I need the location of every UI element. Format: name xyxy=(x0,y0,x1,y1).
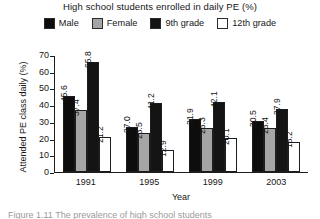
bar-value-label: 42.1 xyxy=(211,91,220,108)
x-axis-tick-labels: 1991199519992003 xyxy=(54,177,308,187)
y-tick-label: 40 xyxy=(39,100,49,110)
x-tick-label: 1995 xyxy=(139,177,159,187)
x-tick-label: 1999 xyxy=(203,177,223,187)
legend-label-male: Male xyxy=(59,19,79,28)
chart-legend: Male Female 9th grade 12th grade xyxy=(0,18,320,29)
bar-value-label: 18.2 xyxy=(286,131,295,148)
bar-value-label: 65.8 xyxy=(84,52,93,69)
bar-value-label: 26.3 xyxy=(199,118,208,135)
plot-area: 010203040506070 45.637.465.821.227.023.5… xyxy=(54,56,308,173)
chart-title: High school students enrolled in daily P… xyxy=(0,1,320,12)
bar: 26.3 xyxy=(201,128,213,172)
bar-value-label: 41.2 xyxy=(147,93,156,110)
y-tick-mark xyxy=(50,56,54,57)
legend-label-female: Female xyxy=(107,19,138,28)
bar-value-label: 45.6 xyxy=(60,85,69,102)
bar-value-label: 37.4 xyxy=(72,99,81,116)
legend-swatch-12th-grade xyxy=(217,18,228,29)
x-axis-line xyxy=(54,172,308,173)
y-tick-mark xyxy=(50,173,54,174)
y-tick-label: 10 xyxy=(39,150,49,160)
bar-value-label: 12.9 xyxy=(159,140,168,157)
bar-value-label: 23.5 xyxy=(135,122,144,139)
y-axis-title: Attended PE class daily (%) xyxy=(18,47,28,187)
bar-group: 27.023.541.212.9 xyxy=(126,56,174,172)
bar: 21.2 xyxy=(99,137,111,172)
y-tick-mark xyxy=(50,123,54,124)
bar-group: 31.926.342.120.1 xyxy=(189,56,237,172)
bar-value-label: 21.2 xyxy=(96,126,105,143)
bar: 65.8 xyxy=(87,62,99,172)
bar-value-label: 30.5 xyxy=(250,111,259,128)
x-axis-title: Year xyxy=(54,192,308,202)
y-tick-label: 20 xyxy=(39,134,49,144)
bar-value-label: 31.9 xyxy=(187,108,196,125)
bar: 20.1 xyxy=(225,138,237,172)
figure-caption: Figure 1.11 The prevalence of high schoo… xyxy=(8,210,312,219)
y-tick-mark xyxy=(50,106,54,107)
y-tick-label: 50 xyxy=(39,83,49,93)
x-tick-label: 1991 xyxy=(76,177,96,187)
bar: 37.4 xyxy=(75,110,87,173)
y-tick-label: 30 xyxy=(39,117,49,127)
legend-label-12th-grade: 12th grade xyxy=(232,19,276,28)
bar: 12.9 xyxy=(162,150,174,172)
legend-item-12th-grade: 12th grade xyxy=(217,18,276,29)
y-tick-label: 0 xyxy=(44,167,49,177)
y-tick-label: 70 xyxy=(39,50,49,60)
bar: 41.2 xyxy=(150,103,162,172)
bar: 18.2 xyxy=(288,142,300,172)
y-tick-mark xyxy=(50,89,54,90)
bar-value-label: 27.0 xyxy=(123,117,132,134)
legend-swatch-female xyxy=(92,18,103,29)
legend-item-9th-grade: 9th grade xyxy=(150,18,204,29)
legend-label-9th-grade: 9th grade xyxy=(165,19,204,28)
y-tick-mark xyxy=(50,73,54,74)
x-tick-label: 2003 xyxy=(266,177,286,187)
bar-group: 30.526.437.918.2 xyxy=(252,56,300,172)
bar-groups: 45.637.465.821.227.023.541.212.931.926.3… xyxy=(55,56,308,172)
legend-item-female: Female xyxy=(92,18,138,29)
bar-value-label: 37.9 xyxy=(274,98,283,115)
bar: 23.5 xyxy=(138,133,150,172)
bar-value-label: 20.1 xyxy=(223,128,232,145)
chart-figure: High school students enrolled in daily P… xyxy=(0,0,320,219)
bar: 26.4 xyxy=(264,128,276,172)
y-tick-label: 60 xyxy=(39,67,49,77)
legend-swatch-male xyxy=(44,18,55,29)
bar-group: 45.637.465.821.2 xyxy=(63,56,111,172)
legend-item-male: Male xyxy=(44,18,79,29)
y-tick-mark xyxy=(50,156,54,157)
y-tick-mark xyxy=(50,140,54,141)
bar-value-label: 26.4 xyxy=(262,118,271,135)
legend-swatch-9th-grade xyxy=(150,18,161,29)
